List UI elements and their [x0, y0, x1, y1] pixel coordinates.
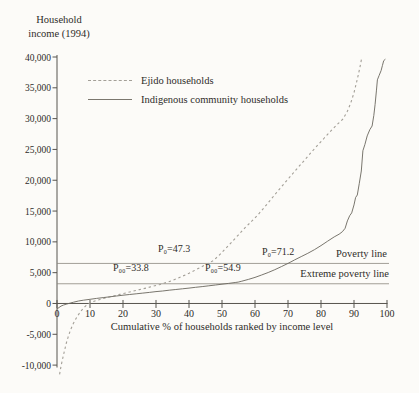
y-tick-label: 30,000 [25, 114, 51, 124]
x-tick-label: 10 [85, 308, 95, 319]
extreme-poverty-line-label: Extreme poverty line [300, 268, 389, 279]
annotation-p00-indigenous: P₀₀=54.9 [205, 262, 241, 273]
y-tick-label: -10,000 [22, 361, 52, 371]
y-tick-label: -5,000 [26, 330, 51, 340]
x-tick-label: 90 [349, 308, 359, 319]
annotation-p00-ejido: P₀₀=33.8 [113, 262, 149, 273]
x-tick-label: 0 [55, 308, 60, 319]
x-tick-label: 30 [151, 308, 161, 319]
legend-indigenous-label: Indigenous community households [141, 94, 288, 105]
x-tick-label: 20 [118, 308, 128, 319]
y-tick-label: 25,000 [25, 145, 51, 155]
poverty-line-label: Poverty line [336, 248, 387, 259]
x-tick-label: 40 [184, 308, 194, 319]
x-tick-label: 60 [250, 308, 260, 319]
y-tick-label: 5,000 [30, 268, 52, 278]
x-tick-label: 80 [316, 308, 326, 319]
plot-area: 40,00035,00030,00025,00020,00015,00010,0… [0, 0, 419, 393]
x-tick-label: 70 [283, 308, 293, 319]
y-tick-label: 10,000 [25, 237, 51, 247]
chart-root: Household income (1994) 40,00035,00030,0… [0, 0, 419, 393]
y-tick-label: 40,000 [25, 53, 51, 63]
x-tick-label: 100 [380, 308, 395, 319]
legend-ejido-line-sample [88, 80, 132, 81]
annotation-p0-indigenous: P₀=71.2 [262, 246, 294, 257]
y-tick-label: 15,000 [25, 207, 51, 217]
legend-ejido-label: Ejido households [141, 75, 214, 86]
x-tick-label: 50 [217, 308, 227, 319]
x-axis-label: Cumulative % of households ranked by inc… [57, 321, 387, 332]
annotation-p0-ejido: P₀=47.3 [158, 243, 190, 254]
legend: Ejido households Indigenous community ho… [88, 71, 288, 109]
legend-row-indigenous: Indigenous community households [88, 90, 288, 109]
y-tick-label: 0 [46, 299, 51, 309]
y-tick-label: 20,000 [25, 176, 51, 186]
legend-row-ejido: Ejido households [88, 71, 288, 90]
y-tick-label: 35,000 [25, 83, 51, 93]
legend-indigenous-line-sample [88, 99, 132, 100]
